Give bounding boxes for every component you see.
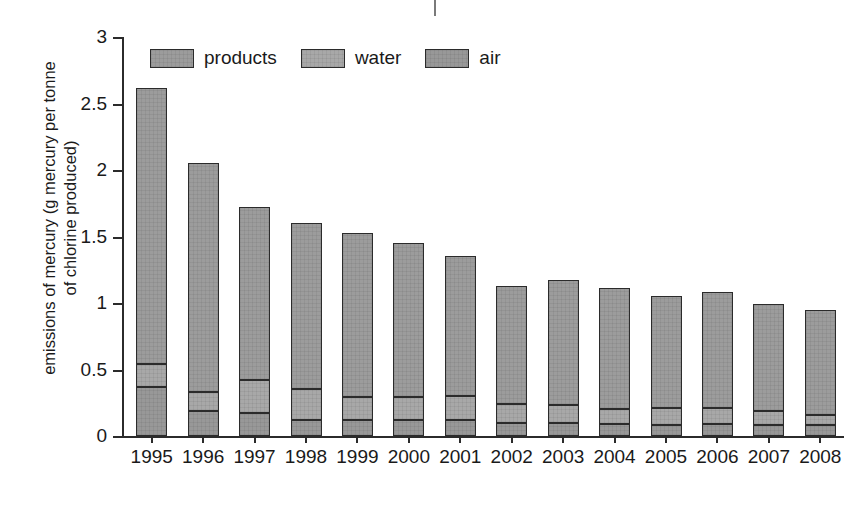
y-axis-title-line-2: of chlorine produced) — [60, 141, 81, 296]
x-tick-label-2008: 2008 — [799, 446, 841, 468]
x-tick-label-1998: 1998 — [285, 446, 327, 468]
bar-2004 — [599, 288, 630, 436]
y-tick-label: 0.5 — [81, 359, 107, 381]
bar-segment-air-1995 — [136, 387, 167, 436]
x-tick-label-2000: 2000 — [388, 446, 430, 468]
x-tick-2005 — [665, 436, 667, 443]
products-swatch — [150, 49, 194, 68]
y-tick-label: 1 — [96, 292, 107, 314]
y-tick-0: 0 — [113, 436, 122, 438]
bar-2005 — [651, 296, 682, 436]
x-tick-2007 — [768, 436, 770, 443]
y-tick-label: 3 — [96, 26, 107, 48]
bar-segment-air-2008 — [805, 425, 836, 436]
bar-2007 — [753, 304, 784, 436]
bar-segment-air-1999 — [342, 420, 373, 436]
legend-label-products: products — [204, 47, 277, 69]
x-tick-1995 — [151, 436, 153, 443]
bar-segment-products-1999 — [342, 233, 373, 398]
bar-2002 — [496, 286, 527, 436]
bar-1997 — [239, 207, 270, 436]
legend-item-products: products — [150, 47, 301, 69]
bar-segment-air-2001 — [445, 420, 476, 436]
chart-figure: emissions of mercury (g mercury per tonn… — [0, 0, 864, 506]
bar-2008 — [805, 310, 836, 436]
bar-1998 — [291, 223, 322, 436]
bar-segment-products-2001 — [445, 256, 476, 396]
x-tick-2008 — [819, 436, 821, 443]
stray-tick-artifact — [434, 0, 436, 16]
bar-segment-water-2007 — [753, 411, 784, 426]
legend-label-air: air — [479, 47, 500, 69]
bar-segment-water-2008 — [805, 415, 836, 426]
bar-segment-air-2007 — [753, 425, 784, 436]
water-swatch — [301, 49, 345, 68]
bar-segment-products-2003 — [548, 280, 579, 405]
legend-label-water: water — [355, 47, 401, 69]
x-tick-label-1995: 1995 — [131, 446, 173, 468]
y-tick-2.5: 2.5 — [113, 104, 122, 106]
x-tick-label-2005: 2005 — [645, 446, 687, 468]
y-tick-label: 0 — [96, 425, 107, 447]
bar-segment-water-1995 — [136, 364, 167, 387]
x-tick-label-2003: 2003 — [542, 446, 584, 468]
y-axis-line — [122, 37, 124, 436]
bar-segment-air-1997 — [239, 413, 270, 436]
x-tick-1998 — [305, 436, 307, 443]
y-tick-label: 2.5 — [81, 93, 107, 115]
x-tick-label-2002: 2002 — [491, 446, 533, 468]
bar-segment-water-2004 — [599, 409, 630, 424]
bar-segment-air-2004 — [599, 424, 630, 436]
air-swatch — [425, 49, 469, 68]
bar-segment-air-2000 — [393, 420, 424, 436]
bar-2003 — [548, 280, 579, 436]
x-tick-2001 — [459, 436, 461, 443]
bar-segment-water-2002 — [496, 404, 527, 423]
bar-1995 — [136, 88, 167, 436]
bar-1999 — [342, 233, 373, 436]
x-axis-line — [122, 436, 844, 438]
y-tick-2: 2 — [113, 170, 122, 172]
bar-2000 — [393, 243, 424, 436]
legend-item-air: air — [425, 47, 524, 69]
bar-segment-water-2003 — [548, 405, 579, 422]
x-tick-label-2004: 2004 — [593, 446, 635, 468]
y-tick-0.5: 0.5 — [113, 370, 122, 372]
x-tick-label-1997: 1997 — [233, 446, 275, 468]
bar-segment-water-2001 — [445, 396, 476, 420]
bar-segment-air-2003 — [548, 423, 579, 436]
x-tick-label-2007: 2007 — [748, 446, 790, 468]
bar-segment-products-2002 — [496, 286, 527, 404]
y-tick-3: 3 — [113, 37, 122, 39]
bar-segment-air-2005 — [651, 425, 682, 436]
chart-legend: productswaterair — [150, 47, 524, 69]
x-tick-label-1996: 1996 — [182, 446, 224, 468]
bar-segment-products-1996 — [188, 163, 219, 392]
y-tick-1: 1 — [113, 303, 122, 305]
bar-segment-products-1997 — [239, 207, 270, 380]
plot-area: 00.511.522.53 19951996199719981999200020… — [122, 37, 842, 436]
bar-segment-water-2000 — [393, 397, 424, 420]
y-axis-title-line-1: emissions of mercury (g mercury per tonn… — [39, 61, 60, 375]
bar-segment-air-2006 — [702, 424, 733, 436]
bar-segment-water-1999 — [342, 397, 373, 420]
bar-segment-air-1996 — [188, 411, 219, 436]
bar-segment-products-2007 — [753, 304, 784, 410]
bar-segment-water-2005 — [651, 408, 682, 425]
bar-segment-products-2005 — [651, 296, 682, 408]
bar-segment-products-2004 — [599, 288, 630, 409]
bar-segment-products-2000 — [393, 243, 424, 397]
bar-segment-products-2008 — [805, 310, 836, 415]
bar-2006 — [702, 292, 733, 436]
y-tick-1.5: 1.5 — [113, 237, 122, 239]
bar-segment-products-1998 — [291, 223, 322, 389]
bar-segment-air-2002 — [496, 423, 527, 436]
bar-segment-water-1997 — [239, 380, 270, 413]
x-tick-2006 — [716, 436, 718, 443]
x-tick-1999 — [356, 436, 358, 443]
y-tick-label: 1.5 — [81, 226, 107, 248]
x-tick-1996 — [202, 436, 204, 443]
bar-segment-products-1995 — [136, 88, 167, 365]
x-tick-2004 — [614, 436, 616, 443]
x-tick-2003 — [562, 436, 564, 443]
